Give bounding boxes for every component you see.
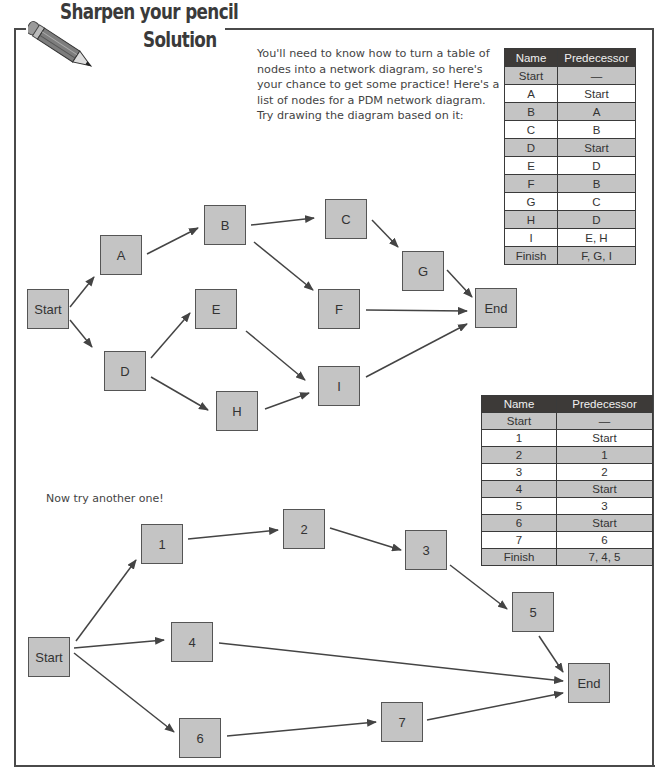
node-start: Start xyxy=(27,289,69,329)
node-table-numbers: Name Predecessor Start— 1Start 21 32 4St… xyxy=(481,395,653,566)
table-row: 53 xyxy=(482,498,653,515)
node-2: 2 xyxy=(283,509,325,549)
cell-predecessor: 2 xyxy=(557,464,653,481)
arrow-4-end xyxy=(219,643,563,681)
arrow-2-3 xyxy=(330,528,401,550)
arrow-a-b xyxy=(147,228,198,254)
cell-name: 4 xyxy=(482,481,557,498)
cell-predecessor: Start xyxy=(557,515,653,532)
arrow-5-end xyxy=(539,636,563,672)
arrow-7-end xyxy=(427,693,563,720)
arrow-6-7 xyxy=(227,722,376,736)
table-row: 21 xyxy=(482,447,653,464)
arrow-3-5 xyxy=(450,565,507,609)
arrow-start-d xyxy=(70,320,92,347)
node-5: 5 xyxy=(512,592,554,632)
cell-name: Finish xyxy=(482,549,557,566)
cell-predecessor: 3 xyxy=(557,498,653,515)
arrow-start-1 xyxy=(76,560,136,641)
cell-predecessor: 1 xyxy=(557,447,653,464)
arrow-b-f xyxy=(254,242,313,290)
arrow-b-c xyxy=(251,218,314,225)
arrow-e-i xyxy=(246,331,305,380)
arrow-d-e xyxy=(151,313,190,358)
table-row: 32 xyxy=(482,464,653,481)
arrow-d-h xyxy=(151,377,208,410)
node-g: G xyxy=(402,251,444,291)
table-row: 1Start xyxy=(482,430,653,447)
node-4: 4 xyxy=(171,622,213,662)
cell-predecessor: — xyxy=(557,413,653,430)
arrow-f-end xyxy=(366,310,467,311)
table-row: 6Start xyxy=(482,515,653,532)
arrow-start-4 xyxy=(74,640,164,648)
cell-predecessor: 6 xyxy=(557,532,653,549)
node-b: B xyxy=(204,205,246,245)
arrow-1-2 xyxy=(188,530,278,539)
node-7: 7 xyxy=(381,702,423,742)
node-6: 6 xyxy=(179,718,221,758)
node-d: D xyxy=(104,351,146,391)
cell-name: Start xyxy=(482,413,557,430)
cell-name: 7 xyxy=(482,532,557,549)
arrow-start-a xyxy=(70,277,94,307)
arrow-start-6 xyxy=(74,653,174,732)
cell-name: 6 xyxy=(482,515,557,532)
cell-name: 5 xyxy=(482,498,557,515)
node-1: 1 xyxy=(141,524,183,564)
node-a: A xyxy=(100,235,142,275)
column-header-predecessor: Predecessor xyxy=(557,396,653,413)
another-exercise-prompt: Now try another one! xyxy=(46,492,164,505)
node-start: Start xyxy=(28,637,70,677)
table-row: Start— xyxy=(482,413,653,430)
node-3: 3 xyxy=(405,530,447,570)
cell-predecessor: 7, 4, 5 xyxy=(557,549,653,566)
table-row: Finish7, 4, 5 xyxy=(482,549,653,566)
cell-name: 1 xyxy=(482,430,557,447)
arrow-i-end xyxy=(366,324,467,377)
table-row: 76 xyxy=(482,532,653,549)
node-h: H xyxy=(216,391,258,431)
node-end: End xyxy=(475,288,517,328)
cell-predecessor: Start xyxy=(557,430,653,447)
arrow-c-g xyxy=(372,220,398,247)
arrow-g-end xyxy=(447,270,472,297)
table-row: 4Start xyxy=(482,481,653,498)
cell-predecessor: Start xyxy=(557,481,653,498)
column-header-name: Name xyxy=(482,396,557,413)
node-c: C xyxy=(325,199,367,239)
arrow-h-i xyxy=(265,393,309,409)
node-end: End xyxy=(568,663,610,703)
cell-name: 2 xyxy=(482,447,557,464)
cell-name: 3 xyxy=(482,464,557,481)
node-f: F xyxy=(318,289,360,329)
node-e: E xyxy=(195,289,237,329)
node-i: I xyxy=(318,366,360,406)
